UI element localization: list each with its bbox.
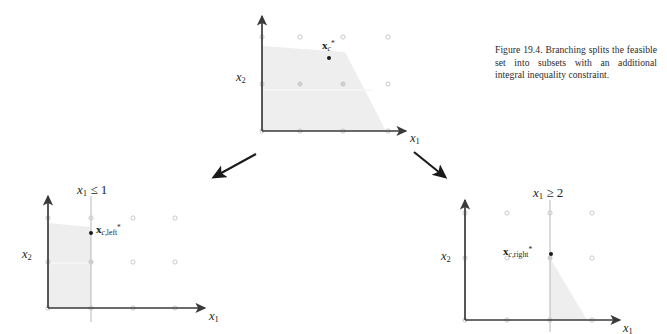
figure-caption: Figure 19.4. Branching splits the feasib… — [495, 44, 657, 82]
y-axis-label-parent: x2 — [236, 71, 246, 85]
feasible-region-parent — [262, 46, 386, 131]
solution-point-right — [549, 252, 553, 256]
x-axis-label-parent: x1 — [410, 132, 420, 146]
x-axis-label-left: x1 — [209, 310, 219, 324]
constraint-label-right: x1 ≥ 2 — [533, 186, 563, 201]
x-axis-label-right: x1 — [623, 322, 633, 334]
branch-arrows — [214, 152, 445, 177]
right-branch-plot — [463, 200, 620, 332]
y-axis-label-left: x2 — [22, 248, 32, 262]
parent-problem-plot — [260, 16, 406, 133]
feasible-region-left — [48, 223, 91, 308]
solution-label-left: xc,left* — [96, 224, 121, 237]
branch-arrow-left — [214, 154, 256, 177]
branch-arrow-right — [414, 152, 445, 177]
solution-point-parent — [327, 56, 331, 60]
feasible-region-right — [550, 258, 587, 320]
solution-label-parent: xc* — [322, 40, 335, 53]
figure-container: Figure 19.4. Branching splits the feasib… — [0, 0, 667, 334]
y-axis-label-right: x2 — [441, 250, 451, 264]
constraint-label-left: x1 ≤ 1 — [77, 183, 107, 198]
figure-number: Figure 19.4. — [495, 44, 543, 55]
left-branch-plot — [46, 196, 205, 322]
solution-point-left — [89, 231, 93, 235]
solution-label-right: xc,right* — [503, 246, 532, 259]
